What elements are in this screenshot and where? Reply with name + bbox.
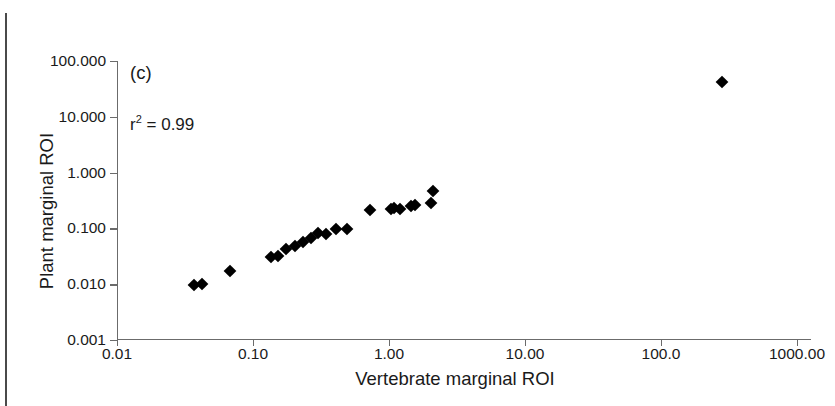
figure-page: 100.00010.0001.0000.1000.0100.001 0.010.… xyxy=(0,0,835,406)
data-point xyxy=(426,185,439,198)
r-squared-annotation: r2 = 0.99 xyxy=(130,113,194,135)
data-point xyxy=(195,277,208,290)
x-axis-tick-label: 1.00 xyxy=(374,346,404,362)
x-axis-tick-label: 0.01 xyxy=(102,346,132,362)
data-point xyxy=(715,76,728,89)
data-point xyxy=(340,222,353,235)
x-axis-spine xyxy=(117,339,811,340)
y-axis-tick xyxy=(110,61,117,62)
r2-value: = 0.99 xyxy=(142,115,194,134)
y-axis-tick-label: 100.000 xyxy=(0,53,106,69)
x-axis-tick-label: 1000.00 xyxy=(769,346,825,362)
y-axis-title: Plant marginal ROI xyxy=(36,101,58,321)
data-point xyxy=(364,204,377,217)
y-axis-spine xyxy=(117,61,118,340)
y-axis-tick xyxy=(110,117,117,118)
panel-label: (c) xyxy=(130,62,152,84)
data-point xyxy=(425,196,438,209)
x-axis-tick-label: 10.00 xyxy=(506,346,545,362)
x-axis-tick-label: 0.10 xyxy=(238,346,268,362)
x-axis-title: Vertebrate marginal ROI xyxy=(355,368,554,390)
y-axis-tick xyxy=(110,173,117,174)
scatter-plot: 100.00010.0001.0000.1000.0100.001 0.010.… xyxy=(0,0,835,406)
y-axis-tick xyxy=(110,228,117,229)
data-point xyxy=(224,264,237,277)
x-axis-tick-label: 100.0 xyxy=(642,346,681,362)
y-axis-tick-label: 0.001 xyxy=(0,332,106,348)
y-axis-tick xyxy=(110,284,117,285)
y-axis-tick xyxy=(110,340,117,341)
